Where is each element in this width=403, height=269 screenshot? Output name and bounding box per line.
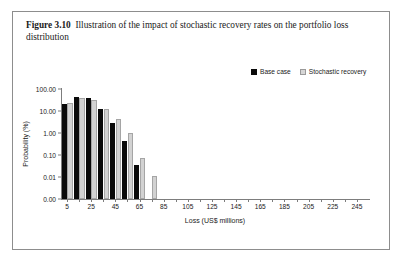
x-axis-tick-label: 45 xyxy=(112,203,119,210)
x-axis-tick-label: 165 xyxy=(255,203,266,210)
x-axis-tick-label: 25 xyxy=(88,203,95,210)
chart-bar xyxy=(98,109,103,199)
x-axis-tick-label: 205 xyxy=(303,203,314,210)
x-axis-tick-mark xyxy=(297,199,298,202)
x-axis-tick-mark xyxy=(103,199,104,202)
x-axis-tick-mark xyxy=(176,199,177,202)
chart-plot-area: 100.0010.001.000.100.010.005254565851051… xyxy=(61,89,369,199)
chart-bar xyxy=(140,158,145,199)
x-axis-tick-mark xyxy=(333,199,334,202)
x-axis-tick-mark xyxy=(91,199,92,202)
x-axis-tick-label: 245 xyxy=(351,203,362,210)
chart-plot-wrapper: Probability (%) 100.0010.001.000.100.010… xyxy=(13,12,391,250)
y-axis-tick-mark xyxy=(58,89,61,90)
x-axis-tick-mark xyxy=(272,199,273,202)
x-axis-tick-mark xyxy=(127,199,128,202)
x-axis-tick-mark xyxy=(115,199,116,202)
x-axis-tick-mark xyxy=(212,199,213,202)
x-axis-title: Loss (US$ millions) xyxy=(61,217,369,224)
chart-bar xyxy=(91,100,96,199)
x-axis-tick-label: 185 xyxy=(279,203,290,210)
x-axis-tick-mark xyxy=(79,199,80,202)
x-axis-tick-mark xyxy=(357,199,358,202)
x-axis-tick-mark xyxy=(309,199,310,202)
figure-box: Figure 3.10 Illustration of the impact o… xyxy=(12,11,390,250)
x-axis-tick-mark xyxy=(164,199,165,202)
chart-bar xyxy=(152,176,157,199)
x-axis-tick-mark xyxy=(284,199,285,202)
x-axis-tick-mark xyxy=(224,199,225,202)
x-axis-tick-label: 145 xyxy=(231,203,242,210)
x-axis-tick-mark xyxy=(345,199,346,202)
x-axis-tick-label: 85 xyxy=(160,203,167,210)
x-axis-tick-label: 5 xyxy=(65,203,69,210)
clipped-text-above-figure: · · · · xyxy=(0,0,403,8)
chart-bar xyxy=(116,119,121,199)
chart-bar xyxy=(74,97,79,199)
y-axis-title: Probability (%) xyxy=(22,121,29,167)
x-axis-tick-mark xyxy=(236,199,237,202)
x-axis-tick-label: 105 xyxy=(182,203,193,210)
chart-bar xyxy=(110,123,115,199)
x-axis-tick-mark xyxy=(248,199,249,202)
chart-bar xyxy=(67,103,72,199)
x-axis-tick-mark xyxy=(67,199,68,202)
chart-bar xyxy=(122,141,127,199)
x-axis-tick-label: 65 xyxy=(136,203,143,210)
x-axis-tick-mark xyxy=(188,199,189,202)
chart-bar xyxy=(128,133,133,199)
x-axis-tick-label: 225 xyxy=(327,203,338,210)
chart-bar xyxy=(62,104,67,199)
chart-bar xyxy=(104,109,109,200)
chart-bar xyxy=(86,98,91,199)
x-axis-tick-mark xyxy=(200,199,201,202)
x-axis-tick-label: 125 xyxy=(206,203,217,210)
x-axis-tick-mark xyxy=(321,199,322,202)
chart-bar xyxy=(79,98,84,199)
x-axis-tick-mark xyxy=(152,199,153,202)
x-axis-line xyxy=(61,199,370,200)
x-axis-tick-mark xyxy=(140,199,141,202)
chart-bar xyxy=(134,165,139,199)
x-axis-tick-mark xyxy=(260,199,261,202)
